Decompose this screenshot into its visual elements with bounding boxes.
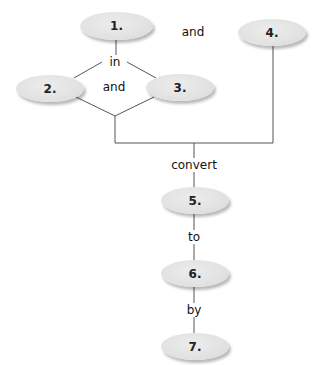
node-6-label: 6. xyxy=(189,267,202,281)
node-3-label: 3. xyxy=(174,81,187,95)
connector-to: to xyxy=(186,230,202,244)
node-2: 2. xyxy=(16,75,84,102)
node-7: 7. xyxy=(161,333,229,360)
node-1-label: 1. xyxy=(110,19,123,33)
node-2-label: 2. xyxy=(44,82,57,96)
node-3: 3. xyxy=(146,74,214,101)
node-1: 1. xyxy=(80,12,153,40)
connector-by: by xyxy=(185,303,204,317)
connector-in: in xyxy=(108,55,123,69)
connector-lines xyxy=(0,0,316,365)
node-7-label: 7. xyxy=(189,340,202,354)
node-5: 5. xyxy=(161,187,229,214)
connector-and-middle: and xyxy=(101,80,128,94)
node-6: 6. xyxy=(161,260,229,287)
connector-and-top: and xyxy=(180,25,207,39)
node-5-label: 5. xyxy=(189,194,202,208)
node-4-label: 4. xyxy=(266,26,279,40)
node-4: 4. xyxy=(238,19,306,46)
connector-convert: convert xyxy=(169,158,219,172)
